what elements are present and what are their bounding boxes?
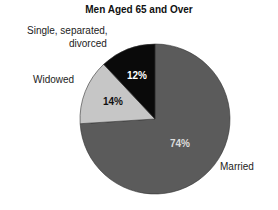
pct-widowed: 14% xyxy=(103,96,123,107)
label-single-line2: divorced xyxy=(69,38,107,49)
pct-single: 12% xyxy=(127,70,147,81)
label-single: Single, separated, xyxy=(27,25,108,36)
label-married: Married xyxy=(220,161,254,172)
label-widowed: Widowed xyxy=(33,74,74,85)
pct-married: 74% xyxy=(170,138,190,149)
